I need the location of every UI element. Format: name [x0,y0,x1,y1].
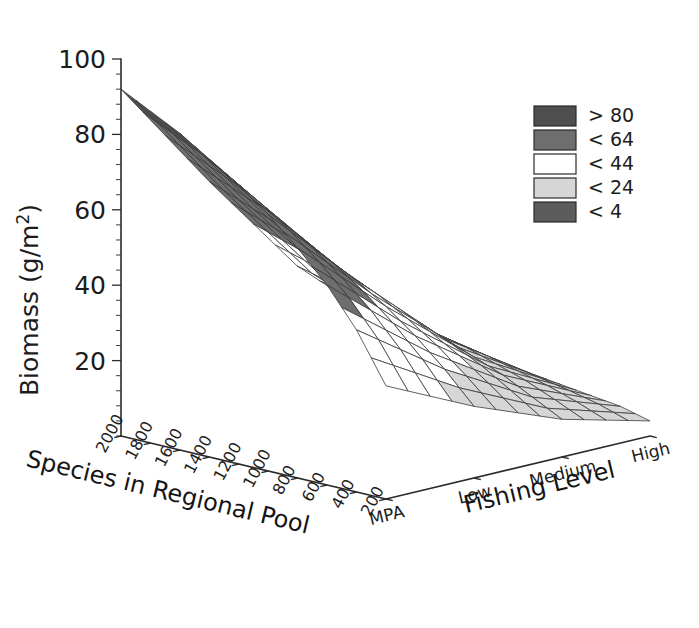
y-axis-tick [650,436,657,438]
x-axis-tick-label: 800 [268,462,299,498]
z-axis-title-tail: ) [15,204,44,214]
y-axis-tick-label: High [629,438,672,467]
x-axis-tick-label: 1800 [121,418,157,463]
legend-label: < 4 [588,200,622,222]
x-axis-tick-label: 400 [327,476,358,512]
legend-swatch [534,106,576,126]
x-axis-tick-label: 2000 [92,411,128,456]
legend-swatch [534,178,576,198]
z-axis-title-main: Biomass (g/m [15,225,44,396]
surface-facet [121,89,158,123]
y-axis-tick [386,499,393,501]
z-axis-tick-label: 40 [74,271,106,300]
legend-swatch [534,154,576,174]
x-axis-tick-label: 600 [298,469,329,505]
y-axis-tick [562,457,569,459]
legend-label: > 80 [588,104,634,126]
z-axis-tick-label: 100 [58,45,106,74]
z-axis-title-superscript: 2 [13,214,33,225]
x-axis-tick-label: 1400 [180,432,216,477]
y-axis-tick [474,478,481,480]
x-axis-tick-label: 1000 [239,446,275,491]
legend-label: < 64 [588,128,634,150]
z-axis-tick-label: 80 [74,120,106,149]
y-axis-title-text: Fishing Level [461,456,618,519]
z-axis-title: Biomass (g/m2) [13,204,44,396]
legend: > 80< 64< 44< 24< 4 [534,104,634,222]
z-axis-tick-label: 20 [74,347,106,376]
x-axis-tick-label: 1600 [151,425,187,470]
legend-label: < 44 [588,152,634,174]
surface-facet [158,123,195,156]
figure-3d-surface-plot: 2040608010020001800160014001200100080060… [0,0,699,628]
y-axis-title: Fishing Level [461,456,618,519]
z-axis-tick-label: 60 [74,196,106,225]
svg-text:Biomass (g/m2): Biomass (g/m2) [13,204,44,396]
legend-swatch [534,202,576,222]
surface-plot-svg: 2040608010020001800160014001200100080060… [0,0,699,628]
legend-swatch [534,130,576,150]
x-axis-tick-label: 1200 [210,439,246,484]
legend-label: < 24 [588,176,634,198]
